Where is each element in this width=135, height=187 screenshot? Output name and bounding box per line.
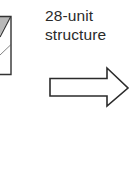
partial-structure-unit-icon xyxy=(0,0,20,80)
structure-label: 28-unit structure xyxy=(45,6,106,44)
diagonal-line-lower xyxy=(0,45,11,55)
label-line-2: structure xyxy=(45,25,106,44)
label-line-1: 28-unit xyxy=(45,6,106,25)
arrow-shape xyxy=(50,68,128,106)
right-arrow-icon xyxy=(48,64,132,110)
